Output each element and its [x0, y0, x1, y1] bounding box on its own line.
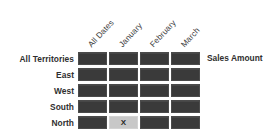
row-label-north[interactable]: North [0, 117, 74, 129]
column-header-all-dates[interactable]: All Dates [78, 0, 108, 50]
matrix-cell[interactable] [78, 116, 107, 129]
matrix-cell[interactable] [109, 84, 138, 97]
matrix-cell[interactable] [140, 84, 169, 97]
column-header-row: All Dates January February March [78, 0, 202, 50]
matrix-cell[interactable] [78, 52, 107, 65]
matrix-cell[interactable] [140, 116, 169, 129]
column-header-march[interactable]: March [171, 0, 201, 50]
matrix-cell[interactable] [140, 100, 169, 113]
row-label-east[interactable]: East [0, 69, 74, 81]
matrix-grid: X [78, 52, 202, 131]
matrix-cell[interactable] [171, 116, 200, 129]
matrix-cell[interactable] [171, 68, 200, 81]
matrix-cell[interactable] [78, 100, 107, 113]
measure-label-sales-amount: Sales Amount [207, 52, 263, 64]
column-header-label: March [180, 26, 202, 49]
matrix-cell[interactable] [109, 100, 138, 113]
row-label-west[interactable]: West [0, 85, 74, 97]
matrix-cell[interactable] [171, 100, 200, 113]
row-label-all-territories[interactable]: All Territories [0, 53, 74, 65]
column-header-january[interactable]: January [109, 0, 139, 50]
matrix-cell[interactable] [78, 68, 107, 81]
matrix-cell[interactable] [78, 84, 107, 97]
column-header-february[interactable]: February [140, 0, 170, 50]
matrix-cell[interactable] [140, 68, 169, 81]
matrix-cell[interactable] [171, 84, 200, 97]
matrix-cell[interactable] [171, 52, 200, 65]
matrix-cell-selected[interactable]: X [109, 116, 138, 129]
matrix-cell[interactable] [140, 52, 169, 65]
row-label-column: All Territories East West South North [0, 52, 74, 131]
row-label-south[interactable]: South [0, 101, 74, 113]
matrix-cell[interactable] [109, 52, 138, 65]
sales-matrix-widget: All Dates January February March All Ter… [0, 0, 278, 137]
matrix-cell[interactable] [109, 68, 138, 81]
